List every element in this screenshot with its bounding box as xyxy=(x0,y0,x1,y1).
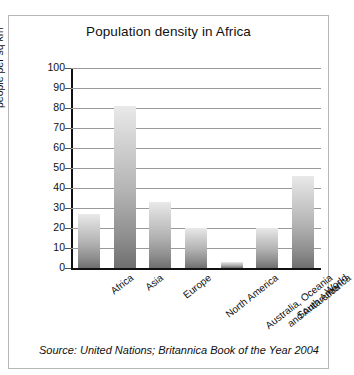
bar xyxy=(78,214,100,268)
y-tick-label-50: 50 xyxy=(53,162,65,173)
y-tick-label-60: 60 xyxy=(53,142,65,153)
y-tick-label-40: 40 xyxy=(53,182,65,193)
y-tick-label-90: 90 xyxy=(53,82,65,93)
source-caption: Source: United Nations; Britannica Book … xyxy=(39,344,319,356)
x-axis-category-label: Africa xyxy=(108,272,135,297)
bar xyxy=(256,228,278,268)
chart-figure: Population density in Africa 10090807060… xyxy=(8,15,329,369)
x-axis-label-line: Africa xyxy=(108,272,135,296)
x-axis-label-line: North America xyxy=(223,272,280,320)
y-tick-label-80: 80 xyxy=(53,102,65,113)
bar xyxy=(221,262,243,268)
bar xyxy=(292,176,314,268)
bar xyxy=(149,202,171,268)
x-axis-label-line: Europe xyxy=(181,272,213,301)
y-tick-label-100: 100 xyxy=(47,62,65,73)
x-axis-category-label: North America xyxy=(223,272,280,320)
x-axis-label-line: Asia xyxy=(143,272,165,293)
plot-area xyxy=(71,68,321,268)
bar xyxy=(114,106,136,268)
bar-series xyxy=(71,68,321,268)
x-axis-category-label: Europe xyxy=(181,272,213,301)
y-tick-label-70: 70 xyxy=(53,122,65,133)
y-tick-label-20: 20 xyxy=(53,222,65,233)
x-axis-category-label: Asia xyxy=(143,272,165,293)
bar xyxy=(185,228,207,268)
y-axis-title: people per sq km xyxy=(0,27,5,108)
chart-title: Population density in Africa xyxy=(9,24,328,39)
gridline-0 xyxy=(71,268,321,270)
y-tick-label-10: 10 xyxy=(53,242,65,253)
y-tick-label-30: 30 xyxy=(53,202,65,213)
